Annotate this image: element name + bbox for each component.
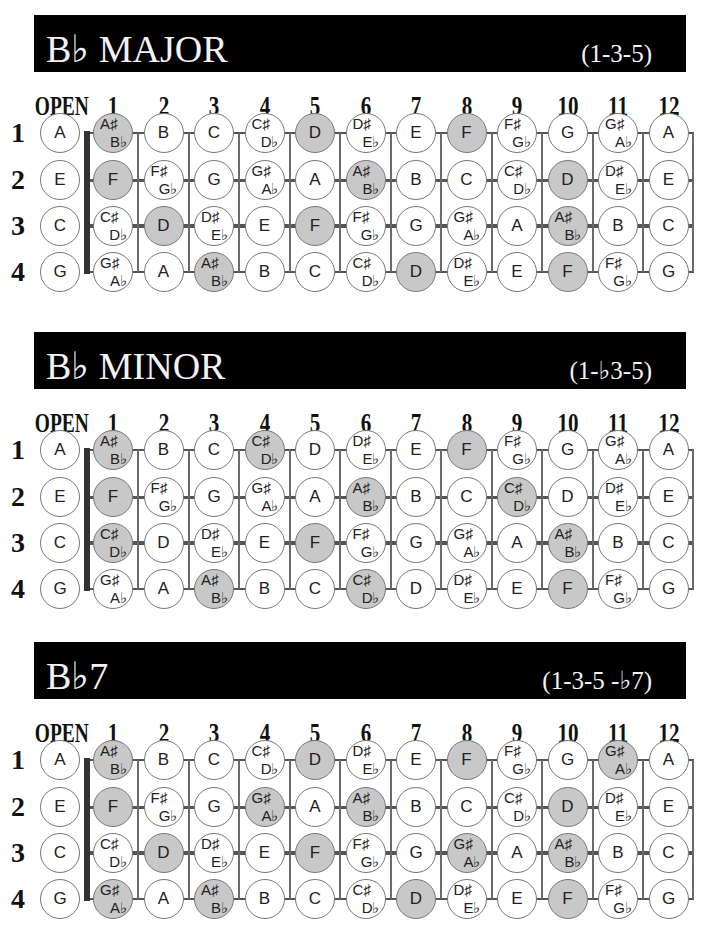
fretboard-note: B <box>144 113 184 153</box>
fretboard-note: C <box>447 160 487 200</box>
chord-title-bar: B♭ MINOR(1-♭3-5) <box>34 332 686 389</box>
note-name: D <box>145 207 183 245</box>
fretboard-note: D <box>295 430 335 470</box>
sharp-name: A♯ <box>100 433 118 448</box>
fretboard-note: B <box>396 160 436 200</box>
fret-wire-2 <box>188 133 190 272</box>
flat-name: E♭ <box>211 854 228 869</box>
flat-name: A♭ <box>463 227 480 242</box>
fretboard-note: F♯G♭ <box>598 879 638 919</box>
string-label-2: 2 <box>8 483 28 511</box>
sharp-name: D♯ <box>201 526 219 541</box>
chord-tone-note: A♯B♭ <box>93 740 133 780</box>
flat-name: D♭ <box>362 900 380 915</box>
fretboard-note: A <box>144 569 184 609</box>
flat-name: D♭ <box>513 181 531 196</box>
sharp-name: G♯ <box>100 255 119 270</box>
sharp-name: F♯ <box>605 572 622 587</box>
note-name: C <box>296 253 334 291</box>
flat-name: G♭ <box>159 808 178 823</box>
sharp-name: F♯ <box>504 433 521 448</box>
sharp-name: C♯ <box>353 572 371 587</box>
sharp-name: D♯ <box>353 116 371 131</box>
fretboard-note: C <box>194 430 234 470</box>
note-name: A <box>650 431 688 469</box>
fretboard-note: F♯G♭ <box>497 113 537 153</box>
fretboard-note: D <box>144 523 184 563</box>
fretboard-note: C♯D♭ <box>497 160 537 200</box>
chord-name: B♭ MAJOR <box>46 30 228 68</box>
fretboard-note: D♯E♭ <box>346 740 386 780</box>
chord-tone-note: A♯B♭ <box>548 523 588 563</box>
sharp-name: C♯ <box>252 116 270 131</box>
fretboard-note: D♯E♭ <box>447 569 487 609</box>
flat-name: A♭ <box>463 544 480 559</box>
fret-wire-3 <box>238 760 240 899</box>
flat-name: E♭ <box>362 761 379 776</box>
sharp-name: D♯ <box>454 572 472 587</box>
chord-tone-note: F <box>447 740 487 780</box>
fretboard-note: E <box>497 569 537 609</box>
chord-tone-note: F <box>93 787 133 827</box>
note-name: C <box>448 161 486 199</box>
chord-tone-note: G♯A♭ <box>598 740 638 780</box>
fretboard-note: G <box>40 879 80 919</box>
fretboard-note: G <box>548 113 588 153</box>
fretboard-note: G♯A♭ <box>245 160 285 200</box>
note-name: G <box>397 207 435 245</box>
sharp-name: F♯ <box>605 882 622 897</box>
chord-tone-note: G♯A♭ <box>245 787 285 827</box>
chord-tone-note: D <box>396 252 436 292</box>
fret-wire-11 <box>642 760 644 899</box>
note-name: A <box>498 207 536 245</box>
fretboard-note: G <box>548 430 588 470</box>
sharp-name: G♯ <box>252 790 271 805</box>
fretboard-note: G <box>649 569 689 609</box>
flat-name: G♭ <box>512 134 531 149</box>
note-name: G <box>650 570 688 608</box>
chord-tone-note: A♯B♭ <box>548 206 588 246</box>
note-name: E <box>397 431 435 469</box>
note-name: E <box>246 524 284 562</box>
fretboard-note: A <box>144 879 184 919</box>
fret-wire-6 <box>390 450 392 589</box>
flat-name: B♭ <box>362 181 379 196</box>
flat-name: E♭ <box>211 544 228 559</box>
fret-wire-5 <box>339 760 341 899</box>
note-name: G <box>195 161 233 199</box>
sharp-name: D♯ <box>353 433 371 448</box>
fretboard-note: E <box>649 477 689 517</box>
chord-tone-note: C♯D♭ <box>93 523 133 563</box>
flat-name: D♭ <box>109 227 127 242</box>
fretboard-note: E <box>40 477 80 517</box>
fret-wire-9 <box>541 760 543 899</box>
fretboard-note: G <box>396 206 436 246</box>
fretboard-note: F♯G♭ <box>346 523 386 563</box>
note-name: D <box>296 431 334 469</box>
chord-tone-note: A♯B♭ <box>93 113 133 153</box>
note-name: G <box>650 253 688 291</box>
note-name: A <box>296 478 334 516</box>
sharp-name: G♯ <box>100 572 119 587</box>
note-name: E <box>498 253 536 291</box>
note-name: C <box>195 431 233 469</box>
fretboard-note: E <box>40 160 80 200</box>
fretboard-note: G <box>396 833 436 873</box>
note-name: D <box>549 161 587 199</box>
flat-name: D♭ <box>261 134 279 149</box>
fret-wire-8 <box>491 450 493 589</box>
note-name: F <box>94 161 132 199</box>
fretboard-note: G♯A♭ <box>447 523 487 563</box>
fret-wire-10 <box>592 760 594 899</box>
sharp-name: A♯ <box>353 163 371 178</box>
fretboard-note: A <box>497 833 537 873</box>
fret-wire-7 <box>440 133 442 272</box>
flat-name: B♭ <box>211 273 228 288</box>
note-name: C <box>448 788 486 826</box>
sharp-name: C♯ <box>252 433 270 448</box>
fretboard-note: F♯G♭ <box>497 430 537 470</box>
sharp-name: F♯ <box>504 743 521 758</box>
note-name: A <box>41 741 79 779</box>
note-name: D <box>397 570 435 608</box>
fret-wire-7 <box>440 760 442 899</box>
